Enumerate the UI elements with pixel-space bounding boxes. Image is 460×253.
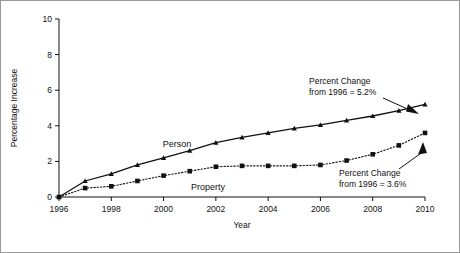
annotation-property-endpoint: Percent Change from 1996 = 3.6% — [339, 142, 427, 189]
x-axis-title: Year — [233, 220, 250, 230]
chart-figure: 0246810 Percentage Increase 199619982000… — [0, 0, 460, 253]
data-point-property — [83, 186, 88, 191]
x-tick-label: 2004 — [259, 204, 278, 214]
x-tick-label: 1996 — [50, 204, 69, 214]
data-point-property — [370, 152, 375, 157]
x-tick-label: 2008 — [363, 204, 382, 214]
y-tick-labels: 0246810 — [43, 14, 53, 202]
x-tick-label: 2010 — [416, 204, 435, 214]
series-label-property: Property — [191, 182, 226, 192]
x-tick-marks — [59, 197, 425, 201]
y-tick-marks — [55, 19, 59, 197]
y-tick-label: 4 — [47, 121, 52, 131]
annotation-person-line1: Percent Change — [309, 76, 371, 86]
x-tick-labels: 19961998200020022004200620082010 — [50, 204, 435, 214]
y-tick-label: 2 — [47, 156, 52, 166]
y-axis-title: Percentage Increase — [9, 69, 19, 148]
data-point-property — [109, 184, 114, 189]
annotation-person-line2: from 1996 = 5.2% — [309, 87, 377, 97]
data-point-property — [266, 164, 271, 169]
data-point-property — [214, 164, 219, 169]
x-axis: 19961998200020022004200620082010 Year — [50, 197, 435, 230]
x-tick-label: 2000 — [154, 204, 173, 214]
y-tick-label: 6 — [47, 85, 52, 95]
y-axis: 0246810 Percentage Increase — [9, 14, 59, 202]
data-point-property — [397, 143, 402, 148]
data-point-property — [161, 173, 166, 178]
annotation-property-line1: Percent Change — [339, 168, 401, 178]
x-tick-label: 2002 — [206, 204, 225, 214]
data-point-property — [135, 179, 140, 184]
y-tick-label: 0 — [47, 192, 52, 202]
y-tick-label: 8 — [47, 50, 52, 60]
data-point-property — [187, 169, 192, 174]
data-point-property — [423, 131, 428, 136]
annotation-property-arrowhead — [418, 142, 427, 155]
data-point-property — [318, 163, 323, 168]
data-point-property — [344, 158, 349, 163]
data-point-property — [292, 164, 297, 169]
data-point-property — [240, 164, 245, 169]
x-tick-label: 2006 — [311, 204, 330, 214]
x-tick-label: 1998 — [102, 204, 121, 214]
data-point-person — [422, 102, 427, 107]
annotation-person-arrowhead — [406, 104, 419, 114]
annotation-property-line2: from 1996 = 3.6% — [339, 179, 407, 189]
line-chart: 0246810 Percentage Increase 199619982000… — [1, 1, 460, 253]
y-tick-label: 10 — [43, 14, 53, 24]
annotation-person-endpoint: Percent Change from 1996 = 5.2% — [309, 76, 419, 114]
series-label-person: Person — [163, 139, 192, 149]
